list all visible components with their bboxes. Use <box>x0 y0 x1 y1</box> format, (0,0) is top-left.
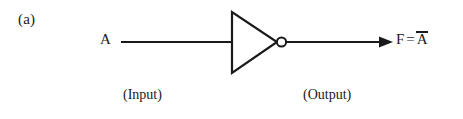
inverter-schematic <box>0 0 463 119</box>
output-arrowhead-icon <box>379 37 393 48</box>
complemented-input-term: A <box>417 31 428 47</box>
inversion-bubble-icon <box>277 37 286 46</box>
input-caption: (Input) <box>123 88 162 102</box>
equals-sign: = <box>404 32 416 47</box>
inverter-triangle-icon <box>232 12 277 73</box>
logic-diagram-figure: (a) A F = A (Input) (Output) <box>0 0 463 119</box>
output-function-name: F <box>396 32 404 47</box>
output-expression-label: F = A <box>396 31 428 47</box>
output-caption: (Output) <box>303 88 351 102</box>
